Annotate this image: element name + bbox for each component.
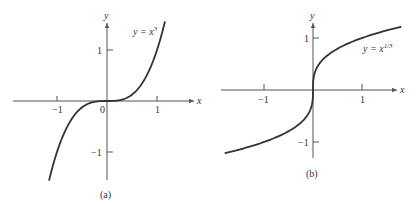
caption-b: (b) (306, 168, 318, 180)
x-tick-label-0: 0 (100, 104, 105, 115)
x-axis-label: x (399, 84, 405, 95)
x-tick-label-1: 1 (360, 94, 365, 105)
x-tick-label-neg1: −1 (258, 94, 269, 105)
curve-annotation: y = x3 (132, 25, 158, 37)
y-tick-label-1: 1 (304, 33, 309, 44)
y-axis-label: y (103, 10, 109, 21)
x-tick-label-neg1: −1 (52, 104, 63, 115)
figure: x y −1 0 1 1 −1 y = x3 (a) x y −1 1 1 −1… (0, 0, 418, 204)
x-tick-label-1: 1 (155, 104, 160, 115)
panel-b: x y −1 1 1 −1 y = x1/3 (b) (221, 10, 405, 180)
x-axis-label: x (196, 95, 202, 106)
y-tick-label-1: 1 (97, 45, 102, 56)
panel-a: x y −1 0 1 1 −1 y = x3 (a) (13, 10, 202, 201)
caption-a: (a) (100, 189, 111, 201)
curve-annotation: y = x1/3 (362, 42, 393, 54)
y-axis-label: y (309, 10, 315, 21)
y-tick-label-neg1: −1 (91, 147, 102, 158)
y-tick-label-neg1: −1 (298, 137, 309, 148)
